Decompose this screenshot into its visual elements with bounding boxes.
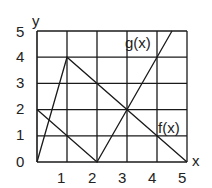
chart-canvas: y x 5 4 3 2 1 0 1 2 3 4 5 g(x) f(x) xyxy=(0,0,212,188)
y-tick-4: 4 xyxy=(16,48,24,65)
y-tick-5: 5 xyxy=(16,23,24,40)
y-axis-label: y xyxy=(32,12,40,29)
y-tick-2: 2 xyxy=(16,100,24,117)
x-tick-3: 3 xyxy=(118,169,126,186)
y-tick-0: 0 xyxy=(16,153,24,170)
y-tick-1: 1 xyxy=(16,126,24,143)
f-label: f(x) xyxy=(158,119,180,136)
g-line xyxy=(37,31,172,162)
y-tick-3: 3 xyxy=(16,74,24,91)
x-axis-label: x xyxy=(192,152,200,169)
x-tick-1: 1 xyxy=(57,169,65,186)
x-tick-4: 4 xyxy=(148,169,156,186)
g-label: g(x) xyxy=(125,34,151,51)
x-tick-2: 2 xyxy=(88,169,96,186)
x-tick-5: 5 xyxy=(178,169,186,186)
